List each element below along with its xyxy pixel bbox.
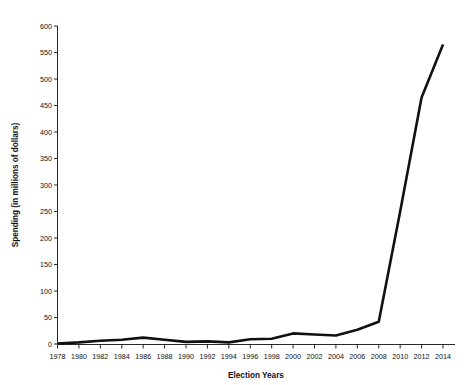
y-tick-label: 250 [40, 207, 52, 216]
x-tick-label: 2008 [371, 352, 387, 361]
y-axis-tick-labels: 050100150200250300350400450500550600 [40, 22, 52, 349]
x-tick-label: 1986 [135, 352, 151, 361]
x-tick-label: 1988 [157, 352, 173, 361]
x-tick-label: 1978 [50, 352, 66, 361]
y-tick-label: 350 [40, 154, 52, 163]
y-tick-label: 200 [40, 234, 52, 243]
x-tick-label: 2012 [414, 352, 430, 361]
x-tick-label: 2000 [285, 352, 301, 361]
y-tick-label: 150 [40, 260, 52, 269]
x-tick-label: 1998 [264, 352, 280, 361]
y-axis-tick-marks [54, 26, 58, 344]
y-tick-label: 400 [40, 128, 52, 137]
y-tick-label: 550 [40, 48, 52, 57]
y-axis-title: Spending (in millions of dollars) [11, 122, 20, 247]
x-tick-label: 2010 [392, 352, 408, 361]
x-tick-label: 1982 [92, 352, 108, 361]
spending-series-line [58, 45, 444, 344]
x-axis-title: Election Years [228, 371, 284, 380]
x-axis-tick-marks [58, 345, 444, 349]
x-tick-label: 1980 [71, 352, 87, 361]
x-tick-label: 1990 [178, 352, 194, 361]
y-tick-label: 300 [40, 181, 52, 190]
y-tick-label: 50 [44, 313, 52, 322]
chart-figure: 050100150200250300350400450500550600 197… [0, 0, 471, 385]
y-tick-label: 600 [40, 22, 52, 31]
x-tick-label: 2006 [349, 352, 365, 361]
x-tick-label: 2014 [435, 352, 451, 361]
y-tick-label: 450 [40, 101, 52, 110]
y-tick-label: 0 [48, 340, 52, 349]
x-tick-label: 2004 [328, 352, 344, 361]
y-tick-label: 100 [40, 287, 52, 296]
y-tick-label: 500 [40, 75, 52, 84]
x-tick-label: 1996 [242, 352, 258, 361]
x-tick-label: 2002 [307, 352, 323, 361]
x-tick-label: 1992 [199, 352, 215, 361]
x-axis-tick-labels: 1978198019821984198619881990199219941996… [50, 352, 452, 361]
line-chart: 050100150200250300350400450500550600 197… [0, 0, 471, 385]
x-tick-label: 1984 [114, 352, 130, 361]
x-tick-label: 1994 [221, 352, 237, 361]
